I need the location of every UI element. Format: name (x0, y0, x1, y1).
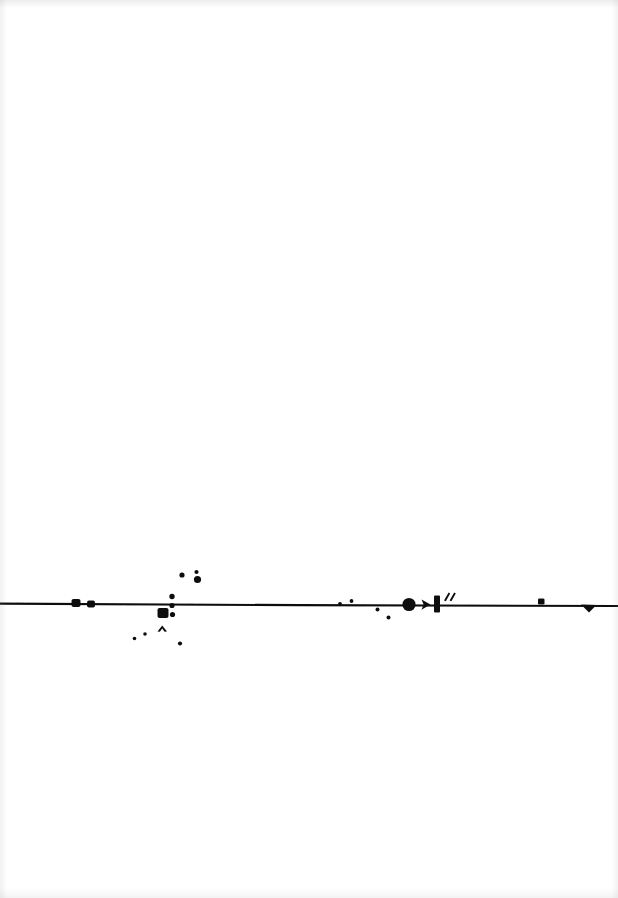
dot-mid-1 (338, 602, 342, 606)
scanned-page (0, 0, 618, 898)
chevron-caret (158, 626, 168, 632)
ink-artwork (0, 0, 618, 898)
blot-square-left-2 (87, 601, 95, 608)
dot-upper-1 (179, 572, 184, 577)
dot-upper-2 (194, 570, 198, 574)
blot-square-center (158, 608, 169, 618)
quote-ticks (444, 593, 456, 602)
dot-column-3 (170, 612, 175, 617)
dot-column-2 (169, 603, 174, 608)
dot-column-1 (169, 594, 174, 599)
wedge-terminal (581, 605, 597, 613)
blot-circle-large (402, 598, 415, 611)
bar-vertical (434, 596, 440, 613)
dot-upper-3 (194, 576, 201, 583)
dot-lower-left-1 (133, 637, 137, 641)
blot-square-right (538, 599, 545, 605)
dot-lower-left-2 (143, 632, 147, 636)
blot-square-left-1 (72, 599, 81, 607)
dot-mid-3 (376, 608, 380, 612)
dot-mid-2 (350, 599, 354, 603)
dot-lower-right (178, 641, 182, 645)
dot-mid-4 (387, 616, 391, 620)
